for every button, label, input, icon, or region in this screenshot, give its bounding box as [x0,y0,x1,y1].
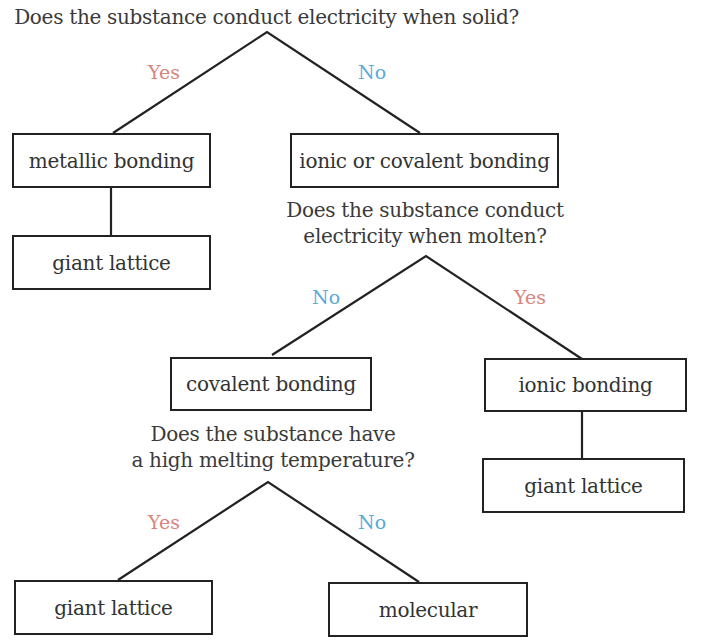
node-covalent-bonding: covalent bonding [170,357,372,411]
node-ionic-bonding: ionic bonding [484,358,687,412]
node-ionic-or-covalent-bonding: ionic or covalent bonding [290,133,559,188]
question-melting-temperature: Does the substance have a high melting t… [118,421,428,473]
connector-lines [0,0,701,643]
node-metallic-bonding: metallic bonding [12,133,211,188]
branch-label-no: No [312,286,340,308]
question-melting-line2: a high melting temperature? [118,447,428,473]
node-giant-lattice-ionic: giant lattice [482,458,685,513]
question-solid-conductivity: Does the substance conduct electricity w… [0,4,533,30]
question-molten-conductivity: Does the substance conduct electricity w… [262,197,588,249]
node-giant-lattice-covalent: giant lattice [14,580,213,635]
branch-label-yes: Yes [514,286,546,308]
question-molten-line1: Does the substance conduct [262,197,588,223]
node-molecular: molecular [328,582,528,637]
question-melting-line1: Does the substance have [118,421,428,447]
node-giant-lattice-metallic: giant lattice [12,235,211,290]
branch-label-yes: Yes [148,511,180,533]
branch-label-no: No [358,61,386,83]
question-molten-line2: electricity when molten? [262,223,588,249]
branch-label-yes: Yes [148,61,180,83]
branch-label-no: No [358,511,386,533]
